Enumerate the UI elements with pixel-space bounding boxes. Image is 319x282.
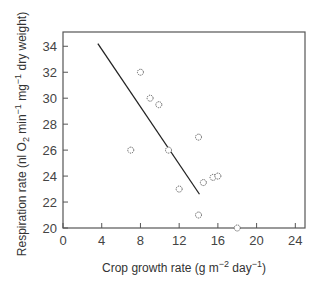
x-tick-label: 20 xyxy=(249,233,263,248)
data-point-marker xyxy=(196,212,202,218)
data-point-marker xyxy=(128,147,134,153)
data-point-marker xyxy=(176,186,182,192)
y-tick-label: 24 xyxy=(43,169,57,184)
y-tick-label: 20 xyxy=(43,221,57,236)
data-point-marker xyxy=(166,147,172,153)
data-point-marker xyxy=(196,134,202,140)
data-points xyxy=(128,69,240,231)
y-axis-label: Respiration rate (nl O2 min−1 mg−1 dry w… xyxy=(13,12,31,256)
x-tick-label: 12 xyxy=(172,233,186,248)
data-point-marker xyxy=(147,95,153,101)
data-point-marker xyxy=(200,180,206,186)
y-axis-ticks: 2022242628303234 xyxy=(43,39,68,236)
plot-frame xyxy=(63,32,305,228)
data-point-marker xyxy=(137,69,143,75)
x-axis-ticks: 04812162024 xyxy=(59,223,302,248)
y-tick-label: 26 xyxy=(43,143,57,158)
x-tick-label: 16 xyxy=(211,233,225,248)
x-tick-label: 4 xyxy=(98,233,105,248)
x-axis-label: Crop growth rate (g m−2 day−1) xyxy=(102,259,266,275)
data-point-marker xyxy=(234,225,240,231)
data-point-marker xyxy=(215,173,221,179)
x-tick-label: 24 xyxy=(288,233,302,248)
data-point-marker xyxy=(156,102,162,108)
y-tick-label: 34 xyxy=(43,39,57,54)
scatter-chart: 2022242628303234 04812162024 Crop growth… xyxy=(0,0,319,282)
y-tick-label: 22 xyxy=(43,195,57,210)
y-tick-label: 28 xyxy=(43,117,57,132)
x-tick-label: 8 xyxy=(137,233,144,248)
x-tick-label: 0 xyxy=(59,233,66,248)
regression-line xyxy=(98,44,200,195)
y-tick-label: 32 xyxy=(43,65,57,80)
y-tick-label: 30 xyxy=(43,91,57,106)
